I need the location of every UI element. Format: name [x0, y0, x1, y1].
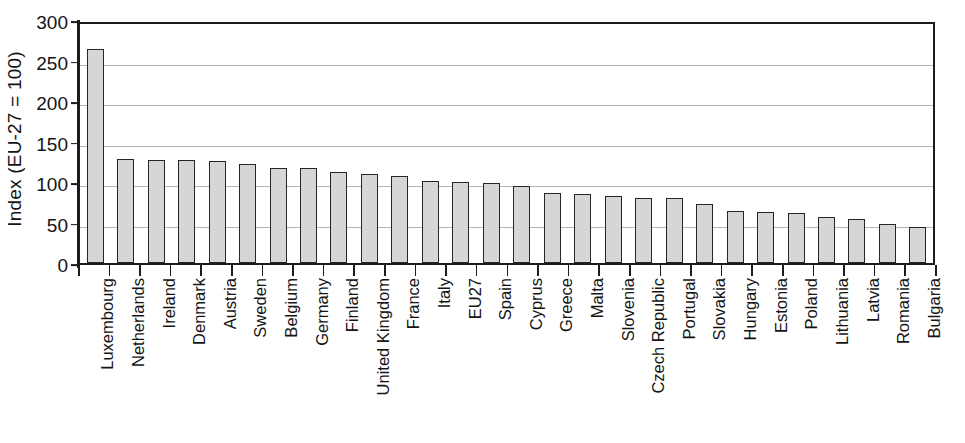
bar-slot	[507, 24, 537, 263]
bars-layer	[80, 24, 933, 263]
x-label-slot: Sweden	[231, 278, 262, 438]
bar[interactable]	[87, 49, 104, 263]
bar-slot	[476, 24, 506, 263]
y-axis-tick-label: 200	[36, 94, 68, 113]
bar[interactable]	[422, 181, 439, 263]
x-label-slot: Hungary	[721, 278, 752, 438]
x-axis-tick-mark	[751, 265, 753, 276]
bar[interactable]	[574, 194, 591, 263]
x-label-slot: Italy	[415, 278, 446, 438]
x-label-slot: Malta	[568, 278, 599, 438]
bar[interactable]	[727, 211, 744, 263]
y-axis-tick-label: 50	[47, 215, 68, 234]
x-axis-tick-mark	[476, 265, 478, 276]
x-label-slot: Poland	[782, 278, 813, 438]
bar-slot	[141, 24, 171, 263]
bar-slot	[568, 24, 598, 263]
bar-slot	[842, 24, 872, 263]
x-label-slot: Slovenia	[598, 278, 629, 438]
bar-slot	[689, 24, 719, 263]
bar[interactable]	[209, 161, 226, 263]
x-label-slot: Estonia	[751, 278, 782, 438]
x-label-slot: Cyprus	[507, 278, 538, 438]
bar[interactable]	[452, 182, 469, 263]
x-axis-tick-mark	[598, 265, 600, 276]
bar-slot	[446, 24, 476, 263]
y-axis-tick-label: 0	[57, 256, 68, 275]
x-axis-labels: LuxembourgNetherlandsIrelandDenmarkAustr…	[78, 278, 935, 438]
x-label-slot: Austria	[200, 278, 231, 438]
bar[interactable]	[666, 198, 683, 263]
bar-slot	[628, 24, 658, 263]
x-axis-tick-mark	[843, 265, 845, 276]
bar[interactable]	[605, 196, 622, 263]
x-label-slot: France	[384, 278, 415, 438]
x-axis-label: Bulgaria	[926, 278, 943, 339]
bar[interactable]	[361, 174, 378, 263]
bar-slot	[872, 24, 902, 263]
bar[interactable]	[178, 160, 195, 263]
y-axis-tick-labels: 300250200150100500	[30, 0, 74, 278]
bar[interactable]	[696, 204, 713, 263]
x-label-slot: Bulgaria	[904, 278, 935, 438]
bar-slot	[385, 24, 415, 263]
bar-slot	[537, 24, 567, 263]
x-axis-tick-mark	[353, 265, 355, 276]
bar[interactable]	[391, 176, 408, 263]
bar[interactable]	[513, 186, 530, 263]
bar-slot	[110, 24, 140, 263]
bar-slot	[720, 24, 750, 263]
x-axis-tick-mark	[721, 265, 723, 276]
x-label-slot: Lithuania	[813, 278, 844, 438]
bar-slot	[903, 24, 933, 263]
bar[interactable]	[635, 198, 652, 263]
bar-slot	[171, 24, 201, 263]
x-axis-tick-mark	[537, 265, 539, 276]
x-label-slot: Slovakia	[690, 278, 721, 438]
bar[interactable]	[788, 213, 805, 263]
x-axis-tick-mark	[507, 265, 509, 276]
plot-area	[78, 22, 935, 265]
bar[interactable]	[879, 224, 896, 263]
y-axis-title-text: Index (EU-27 = 100)	[4, 51, 26, 226]
x-axis-tick-mark	[323, 265, 325, 276]
x-axis-tick-mark	[200, 265, 202, 276]
x-axis-tick-mark	[231, 265, 233, 276]
bar-slot	[598, 24, 628, 263]
x-axis-tick-mark	[292, 265, 294, 276]
x-axis-tick-mark	[445, 265, 447, 276]
bar[interactable]	[544, 193, 561, 263]
bar-slot	[232, 24, 262, 263]
x-axis-tick-mark	[904, 265, 906, 276]
x-label-slot: Greece	[537, 278, 568, 438]
x-axis-tick-mark	[629, 265, 631, 276]
bar[interactable]	[270, 168, 287, 263]
x-axis-tick-mark	[170, 265, 172, 276]
bar[interactable]	[330, 172, 347, 263]
bar[interactable]	[239, 164, 256, 263]
bar-slot	[293, 24, 323, 263]
x-axis-tick-mark	[78, 265, 80, 276]
x-axis-tick-mark	[690, 265, 692, 276]
bar-slot	[324, 24, 354, 263]
x-label-slot: Romania	[874, 278, 905, 438]
bar[interactable]	[848, 219, 865, 263]
x-axis-tick-mark	[935, 265, 937, 276]
bar-slot	[263, 24, 293, 263]
bar-slot	[659, 24, 689, 263]
x-label-slot: Czech Republic	[629, 278, 660, 438]
bar[interactable]	[818, 217, 835, 263]
x-label-slot: United Kingdom	[353, 278, 384, 438]
x-label-slot: Latvia	[843, 278, 874, 438]
x-axis-tick-mark	[384, 265, 386, 276]
x-axis-tick-mark	[568, 265, 570, 276]
x-axis-tick-mark	[660, 265, 662, 276]
bar[interactable]	[757, 212, 774, 263]
bar[interactable]	[300, 168, 317, 263]
x-label-slot: EU27	[445, 278, 476, 438]
bar[interactable]	[483, 183, 500, 263]
bar[interactable]	[909, 227, 926, 263]
x-label-slot: Finland	[323, 278, 354, 438]
bar[interactable]	[148, 160, 165, 263]
bar[interactable]	[117, 159, 134, 263]
